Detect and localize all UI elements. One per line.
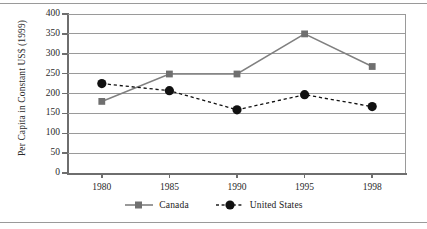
x-axis-tick-label: 1995 <box>275 182 335 192</box>
y-axis-tick <box>62 53 68 55</box>
legend-item-canada[interactable]: Canada <box>124 199 188 211</box>
x-axis-tick-label: 1990 <box>207 182 267 192</box>
gridline <box>68 14 406 15</box>
gridline <box>68 33 406 34</box>
x-axis-tick <box>304 173 306 178</box>
gridline <box>68 133 406 134</box>
y-axis-tick-label: 150 <box>16 107 60 117</box>
y-axis-tick <box>62 93 68 95</box>
gridline <box>68 53 406 54</box>
y-axis-tick-label: 400 <box>16 8 60 18</box>
y-axis-tick-label: 350 <box>16 28 60 38</box>
gridline <box>68 153 406 154</box>
y-axis-tick <box>62 152 68 154</box>
x-axis-tick-label: 1985 <box>139 182 199 192</box>
y-axis-tick-label: 100 <box>16 127 60 137</box>
y-axis-tick-label: 300 <box>16 48 60 58</box>
y-axis-tick-label: 0 <box>16 167 60 177</box>
chart-legend: Canada United States <box>0 199 427 211</box>
x-axis-tick <box>169 173 171 178</box>
gridline <box>68 73 406 74</box>
gridline <box>68 93 406 94</box>
legend-item-united-states[interactable]: United States <box>215 199 303 211</box>
circle-marker-icon <box>215 199 245 211</box>
y-axis-tick <box>62 13 68 15</box>
y-axis-tick <box>62 33 68 35</box>
bottom-divider-rule <box>0 222 427 223</box>
y-axis-tick-label: 250 <box>16 68 60 78</box>
square-marker-icon <box>124 199 154 211</box>
legend-label-canada: Canada <box>159 200 188 210</box>
y-axis-tick <box>62 73 68 75</box>
y-axis-tick-label: 50 <box>16 147 60 157</box>
legend-label-united-states: United States <box>250 200 303 210</box>
x-axis-tick <box>371 173 373 178</box>
x-axis-tick-label: 1998 <box>342 182 402 192</box>
gridline <box>68 113 406 114</box>
y-axis-tick-label: 200 <box>16 88 60 98</box>
x-axis-tick <box>101 173 103 178</box>
y-axis-tick <box>62 113 68 115</box>
y-axis-tick <box>62 133 68 135</box>
y-axis-tick-labels: 050100150200250300350400 <box>10 0 60 200</box>
x-axis-tick-label: 1980 <box>72 182 132 192</box>
y-axis-tick <box>62 172 68 174</box>
chart-figure: Per Capita in Constant US$ (1999) 050100… <box>0 0 427 229</box>
top-divider-rule <box>0 3 427 4</box>
x-axis-tick <box>236 173 238 178</box>
